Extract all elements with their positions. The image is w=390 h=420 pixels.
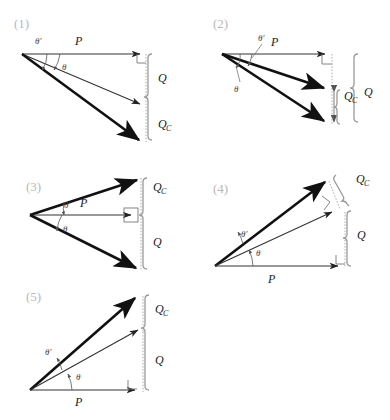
- panel-2-leader-theta-prime: [252, 44, 262, 58]
- panel-3-label: (3): [26, 179, 41, 194]
- panel-5-vector-s: [30, 330, 138, 390]
- panel-5-label-theta-prime: θ′: [45, 347, 52, 357]
- panel-3-label-qc-sub: C: [161, 187, 167, 196]
- panel-1-label-qc-sub: C: [166, 124, 172, 133]
- panel-1: (1) P Q Q C θ′ θ: [14, 16, 172, 142]
- panel-3-bracket-group: [139, 178, 147, 269]
- panel-2-bracket-q: [350, 54, 358, 122]
- panel-2-bracket-qc: [334, 90, 340, 124]
- panel-4-right-angle-marker-bottom: [336, 255, 345, 264]
- panel-1-right-angle-marker: [137, 54, 146, 63]
- panel-5-label-q: Q: [155, 353, 164, 367]
- panel-5-arc-theta: [68, 374, 72, 390]
- panel-5: (5) P Q C Q θ θ′: [26, 289, 169, 409]
- panel-2-right-angle-marker: [322, 54, 332, 64]
- panel-1-label: (1): [14, 16, 29, 31]
- panel-2-label-p: P: [270, 35, 279, 49]
- panel-1-label-q: Q: [158, 71, 167, 85]
- panel-1-vector-sc: [22, 54, 139, 140]
- panel-2-label-qc-sub: C: [352, 96, 358, 105]
- panel-5-bracket-group: [141, 295, 149, 390]
- panel-5-vector-sc: [30, 298, 135, 390]
- panel-5-label: (5): [26, 289, 41, 304]
- panel-2: (2) P Q C Q θ′ θ: [213, 16, 373, 124]
- panel-5-label-p: P: [74, 395, 83, 409]
- panel-4-label-theta-prime: θ′: [241, 229, 248, 239]
- panel-4-label: (4): [213, 181, 228, 196]
- panel-3-label-theta: θ: [63, 224, 68, 234]
- panel-4-label-theta: θ: [256, 248, 261, 258]
- panel-1-label-theta-prime: θ′: [35, 36, 42, 46]
- panel-3-label-p: P: [79, 196, 88, 210]
- panel-4-label-p: P: [267, 272, 276, 286]
- panel-3-label-theta-prime: θ′: [64, 200, 71, 210]
- panel-5-label-qc-sub: C: [163, 309, 169, 318]
- panel-3-vector-s: [30, 215, 136, 268]
- panel-4-bracket-qc: [334, 175, 349, 206]
- panel-1-arc-theta-prime: [42, 54, 47, 70]
- panel-4-bracket-q: [343, 211, 351, 266]
- panel-2-leader-theta: [236, 66, 240, 82]
- panel-5-right-angle-marker: [128, 380, 137, 389]
- panel-5-label-theta: θ: [76, 372, 81, 382]
- panel-1-label-theta: θ: [62, 62, 67, 72]
- panel-1-label-p: P: [74, 34, 83, 48]
- panel-4-arc-theta: [249, 250, 253, 266]
- vector-diagram-figure: (1) P Q Q C θ′ θ (2): [0, 0, 390, 420]
- panel-2-label-theta: θ: [234, 84, 239, 94]
- panel-4-label-qc-sub: C: [364, 179, 370, 188]
- panel-3: (3) P Q C Q θ′ θ: [26, 178, 167, 270]
- panel-4: (4) P Q C Q θ θ′: [213, 172, 370, 286]
- panel-1-bracket-qc: [148, 101, 152, 140]
- panel-1-bracket-q: [144, 54, 152, 101]
- panel-4-label-q: Q: [357, 228, 366, 242]
- panel-2-label-q: Q: [364, 85, 373, 99]
- panel-4-dotted-leg-top: [329, 181, 340, 209]
- panel-4-vector-sc: [215, 182, 325, 266]
- panel-4-right-angle-marker-top: [322, 196, 330, 210]
- panel-2-label-theta-prime: θ′: [258, 33, 265, 43]
- panel-3-label-q: Q: [153, 235, 162, 249]
- panel-2-label: (2): [213, 16, 228, 31]
